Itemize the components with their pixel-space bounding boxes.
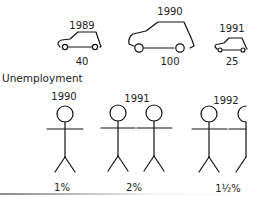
- stick-figure-icon: [45, 105, 85, 175]
- car-icon-1990: [126, 20, 196, 56]
- stick-figure-icon: [192, 105, 230, 175]
- car-year-1990: 1990: [157, 6, 182, 17]
- unemp-year-1990: 1990: [51, 91, 76, 102]
- stick-figure-icon: [101, 104, 137, 174]
- unemployment-title: Unemployment: [2, 72, 83, 84]
- unemp-year-1991: 1991: [124, 93, 149, 104]
- unemp-value-1990: 1%: [54, 182, 70, 193]
- car-year-1991: 1991: [219, 23, 244, 34]
- bottom-divider: [0, 193, 260, 195]
- car-icon-1991: [214, 36, 250, 54]
- car-value-1989: 40: [76, 56, 89, 67]
- car-value-1990: 100: [160, 56, 179, 67]
- stick-figure-icon: [137, 104, 175, 174]
- car-value-1991: 25: [226, 56, 239, 67]
- car-icon-1989: [56, 30, 106, 52]
- unemp-value-1991: 2%: [126, 182, 142, 193]
- half-stick-figure-icon: [229, 105, 249, 175]
